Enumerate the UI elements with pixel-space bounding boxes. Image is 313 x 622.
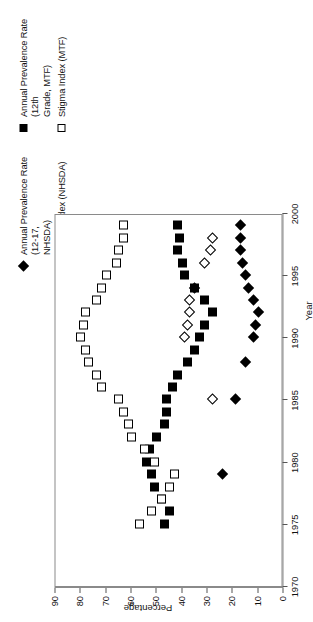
data-point: [147, 507, 156, 516]
y-axis-tick: [257, 588, 258, 593]
data-point: [199, 257, 210, 268]
y-axis-tick-label: 70: [100, 596, 110, 612]
y-axis-tick-label: 0: [278, 596, 288, 612]
data-point: [76, 333, 85, 342]
data-point: [112, 258, 121, 267]
data-point: [84, 358, 93, 367]
x-axis-tick: [283, 213, 288, 214]
data-point: [208, 308, 217, 317]
data-point: [152, 432, 161, 441]
data-point: [119, 233, 128, 242]
data-point: [127, 432, 136, 441]
y-axis-tick: [55, 588, 56, 593]
x-axis-tick: [283, 586, 288, 587]
data-point: [92, 370, 101, 379]
legend-label: Stigma Index (MTF): [57, 37, 68, 117]
data-point: [173, 246, 182, 255]
data-point: [119, 407, 128, 416]
data-point: [195, 333, 204, 342]
y-axis-tick-label: 50: [151, 596, 161, 612]
data-point: [200, 296, 209, 305]
chart-figure: Annual Prevalence Rate (12-17, NHSDA) St…: [11, 0, 300, 622]
data-point: [237, 257, 248, 268]
data-point: [140, 445, 149, 454]
plot-area: [55, 214, 283, 587]
data-point: [252, 307, 263, 318]
x-axis-tick-label: 1985: [290, 390, 300, 411]
data-point: [242, 282, 253, 293]
data-point: [200, 320, 209, 329]
x-axis-tick-label: 1970: [290, 577, 300, 598]
data-point: [247, 294, 258, 305]
x-axis-tick: [283, 524, 288, 525]
data-point: [207, 394, 218, 405]
y-axis-tick-label: 30: [202, 596, 212, 612]
data-point: [235, 245, 246, 256]
data-point: [162, 407, 171, 416]
data-point: [204, 245, 215, 256]
x-axis-tick: [283, 462, 288, 463]
legend-entry-stigma-index-mtf: Stigma Index (MTF): [57, 14, 68, 132]
legend-label: Annual Prevalence Rate (12-17, NHSDA): [19, 150, 53, 255]
y-axis-tick: [131, 588, 132, 593]
data-point: [217, 468, 228, 479]
data-point: [97, 283, 106, 292]
data-point: [162, 395, 171, 404]
legend-entry-annual-prevalence-mtf: Annual Prevalence Rate (12th Grade, MTF): [19, 14, 53, 132]
y-axis-tick-label: 10: [252, 596, 262, 612]
data-point: [250, 319, 261, 330]
x-axis-tick-label: 1975: [290, 515, 300, 536]
data-point: [173, 370, 182, 379]
data-point: [168, 383, 177, 392]
data-point: [81, 308, 90, 317]
x-axis-tick: [283, 275, 288, 276]
y-axis-tick: [232, 588, 233, 593]
data-point: [183, 358, 192, 367]
data-point: [184, 294, 195, 305]
data-point: [179, 332, 190, 343]
data-point: [160, 420, 169, 429]
y-axis-tick: [181, 588, 182, 593]
x-axis-tick-label: 1990: [290, 328, 300, 349]
y-axis-tick-label: 80: [75, 596, 85, 612]
x-axis-tick-label: 2000: [290, 204, 300, 225]
data-point: [240, 357, 251, 368]
data-point: [235, 232, 246, 243]
x-axis-tick: [283, 337, 288, 338]
y-axis-tick: [156, 588, 157, 593]
y-axis-tick: [207, 588, 208, 593]
data-point: [119, 221, 128, 230]
data-point: [182, 319, 193, 330]
data-point: [207, 232, 218, 243]
data-point: [165, 482, 174, 491]
data-point: [173, 221, 182, 230]
filled-square-icon: [20, 124, 28, 132]
data-point: [184, 307, 195, 318]
data-point: [170, 470, 179, 479]
data-point: [157, 494, 166, 503]
y-axis-tick-label: 40: [176, 596, 186, 612]
y-axis-tick: [283, 588, 284, 593]
x-axis-tick-label: 1995: [290, 266, 300, 287]
data-point: [150, 457, 159, 466]
data-point: [102, 271, 111, 280]
y-axis-tick-label: 20: [227, 596, 237, 612]
data-point: [135, 519, 144, 528]
y-axis-tick-label: 90: [50, 596, 60, 612]
data-point: [235, 220, 246, 231]
y-axis-line: [55, 587, 284, 588]
data-point: [81, 345, 90, 354]
data-point: [240, 270, 251, 281]
data-point: [230, 394, 241, 405]
data-point: [180, 271, 189, 280]
y-axis-tick: [80, 588, 81, 593]
y-axis-tick: [105, 588, 106, 593]
data-point: [114, 395, 123, 404]
legend-entry-annual-prevalence-nhsda: Annual Prevalence Rate (12-17, NHSDA): [19, 150, 53, 270]
filled-diamond-icon: [18, 260, 29, 271]
legend-label: Annual Prevalence Rate (12th Grade, MTF): [19, 14, 53, 117]
y-axis-tick-label: 60: [126, 596, 136, 612]
rotated-figure-container: Annual Prevalence Rate (12-17, NHSDA) St…: [11, 0, 300, 622]
x-axis-tick-label: 1980: [290, 452, 300, 473]
x-axis-tick: [283, 400, 288, 401]
